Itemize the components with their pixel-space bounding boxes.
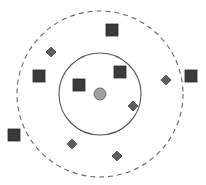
diamond-point (112, 151, 122, 161)
square-point (73, 79, 85, 91)
square-point (8, 129, 20, 141)
diamond-point (67, 139, 77, 149)
diamond-point (128, 101, 138, 111)
diamond-point (161, 75, 171, 85)
query-point (94, 88, 106, 100)
square-point (114, 66, 126, 78)
knn-diagram (0, 0, 206, 185)
square-point (33, 70, 45, 82)
diamond-class-points (46, 47, 171, 161)
square-point (106, 24, 118, 36)
square-point (185, 70, 197, 82)
query-circle (94, 88, 106, 100)
diamond-point (46, 47, 56, 57)
